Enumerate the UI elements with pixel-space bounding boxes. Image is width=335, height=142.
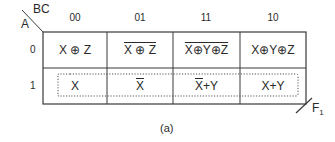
cell-expression: X+Y <box>261 79 284 93</box>
kmap-cell-0-00: X ⊕ Z <box>43 32 107 68</box>
kmap-cell-0-11: X⊕Y⊕Z <box>173 32 240 68</box>
kmap-cell-1-01: X <box>107 68 173 104</box>
column-header: 01 <box>107 12 173 23</box>
overlined-variable: X <box>195 79 203 93</box>
column-header: 10 <box>240 12 306 23</box>
figure-caption: (a) <box>160 122 173 134</box>
row-header: 0 <box>30 44 36 55</box>
row-var-label: A <box>21 17 29 31</box>
expression-rest: +Y <box>203 79 218 93</box>
kmap-cell-0-10: X⊕Y⊕Z <box>240 32 306 68</box>
cell-expression: X ⊕ Z <box>124 43 156 57</box>
cell-expression: X ⊕ Z <box>59 43 91 57</box>
row-header: 1 <box>30 80 36 91</box>
kmap-cell-1-11: X+Y <box>173 68 240 104</box>
output-label: F1 <box>312 101 324 117</box>
kmap-cell-1-00: X <box>43 68 107 104</box>
kmap-cell-1-10: X+Y <box>240 68 306 104</box>
column-header: 00 <box>42 12 108 23</box>
cell-expression: X+Y <box>195 79 218 93</box>
cell-expression: X <box>71 79 79 93</box>
cell-expression: X⊕Y⊕Z <box>185 43 228 57</box>
kmap-cell-0-01: X ⊕ Z <box>107 32 173 68</box>
column-header: 11 <box>173 12 239 23</box>
cell-expression: X⊕Y⊕Z <box>251 43 294 57</box>
cell-expression: X <box>136 79 144 93</box>
